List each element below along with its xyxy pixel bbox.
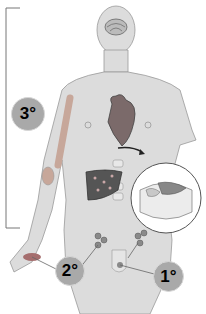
secondary-stage-badge: 2° bbox=[55, 256, 85, 286]
tertiary-stage-badge: 3° bbox=[11, 97, 45, 131]
primary-label: 1° bbox=[160, 267, 176, 287]
primary-stage-badge: 1° bbox=[153, 261, 184, 292]
brain-icon bbox=[105, 19, 127, 35]
spinal-cord-magnified-icon bbox=[131, 163, 201, 233]
syphilis-stages-diagram: 3° 2° 1° bbox=[0, 0, 206, 314]
arm-lesion bbox=[42, 167, 54, 185]
secondary-label: 2° bbox=[62, 261, 78, 281]
tertiary-label: 3° bbox=[20, 104, 36, 124]
